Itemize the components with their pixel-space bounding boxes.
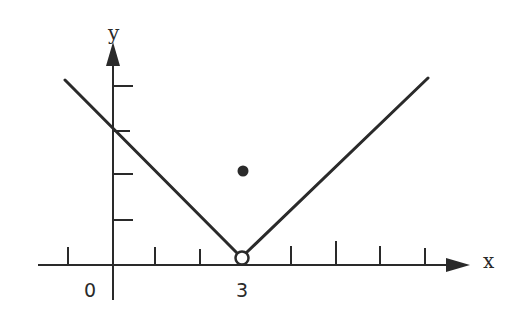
left-branch-line xyxy=(65,80,238,254)
origin-label: 0 xyxy=(84,279,96,301)
right-branch-line xyxy=(246,78,428,253)
y-axis-arrow-icon xyxy=(106,42,120,66)
x-axis-arrow-icon xyxy=(446,258,470,272)
y-axis xyxy=(106,42,120,300)
x-tick-label-3: 3 xyxy=(236,279,248,301)
y-ticks xyxy=(113,86,133,220)
x-axis-label: x xyxy=(483,249,495,273)
filled-dot-point xyxy=(238,166,249,177)
open-circle-point xyxy=(236,252,249,265)
piecewise-function-graph: y x 0 3 xyxy=(0,0,525,311)
x-axis xyxy=(38,258,470,272)
function-lines xyxy=(65,78,428,254)
y-axis-label: y xyxy=(107,21,120,45)
